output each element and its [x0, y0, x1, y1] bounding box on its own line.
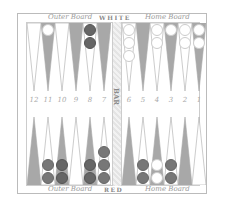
bottom-point-2[interactable]	[55, 117, 69, 185]
white-checker[interactable]	[179, 24, 191, 36]
red-checker[interactable]	[56, 159, 68, 171]
red-checker[interactable]	[42, 159, 54, 171]
top-point-9[interactable]	[164, 23, 178, 91]
red-label: RED	[104, 186, 123, 193]
red-checker[interactable]	[98, 172, 110, 184]
white-checker[interactable]	[165, 24, 177, 36]
red-checker[interactable]	[84, 159, 96, 171]
red-checker[interactable]	[137, 159, 149, 171]
bottom-point-11[interactable]	[192, 117, 206, 185]
top-point-10[interactable]	[178, 23, 192, 91]
top-point-5[interactable]	[97, 23, 111, 91]
top-outer-board-label: Outer Board	[48, 13, 92, 21]
point-number: 2	[178, 96, 192, 104]
top-point-4[interactable]	[83, 23, 97, 91]
top-point-6[interactable]	[122, 23, 136, 91]
point-number: 5	[136, 96, 150, 104]
top-point-3[interactable]	[69, 23, 83, 91]
bottom-point-6[interactable]	[122, 117, 136, 185]
white-checker[interactable]	[42, 24, 54, 36]
white-checker[interactable]	[151, 159, 163, 171]
bottom-point-8[interactable]	[150, 117, 164, 185]
red-checker[interactable]	[84, 172, 96, 184]
point-number: 8	[83, 96, 97, 104]
top-point-0[interactable]	[27, 23, 41, 91]
red-checker[interactable]	[42, 172, 54, 184]
red-checker[interactable]	[84, 24, 96, 36]
white-checker[interactable]	[193, 24, 205, 36]
point-number: 3	[164, 96, 178, 104]
white-checker[interactable]	[151, 24, 163, 36]
white-checker[interactable]	[151, 172, 163, 184]
red-checker[interactable]	[56, 172, 68, 184]
top-point-7[interactable]	[136, 23, 150, 91]
bottom-point-5[interactable]	[97, 117, 111, 185]
red-checker[interactable]	[165, 159, 177, 171]
red-checker[interactable]	[137, 172, 149, 184]
top-home-board-label: Home Board	[145, 13, 190, 21]
bottom-point-0[interactable]	[27, 117, 41, 185]
point-number: 7	[97, 96, 111, 104]
white-checker[interactable]	[123, 50, 135, 62]
white-checker[interactable]	[123, 37, 135, 49]
point-number: 9	[69, 96, 83, 104]
bottom-point-7[interactable]	[136, 117, 150, 185]
point-number: 4	[150, 96, 164, 104]
top-point-8[interactable]	[150, 23, 164, 91]
white-checker[interactable]	[151, 37, 163, 49]
top-point-1[interactable]	[41, 23, 55, 91]
top-point-11[interactable]	[192, 23, 206, 91]
point-number: 12	[27, 96, 41, 104]
bottom-point-9[interactable]	[164, 117, 178, 185]
bottom-point-10[interactable]	[178, 117, 192, 185]
white-label: WHITE	[99, 14, 131, 21]
bottom-home-board-label: Home Board	[145, 185, 190, 193]
white-checker[interactable]	[179, 37, 191, 49]
bottom-point-4[interactable]	[83, 117, 97, 185]
top-point-2[interactable]	[55, 23, 69, 91]
red-checker[interactable]	[98, 146, 110, 158]
point-number: 10	[55, 96, 69, 104]
bar-label: BAR	[112, 88, 122, 105]
white-checker[interactable]	[193, 37, 205, 49]
white-checker[interactable]	[123, 24, 135, 36]
bottom-outer-board-label: Outer Board	[48, 185, 92, 193]
point-number: 6	[122, 96, 136, 104]
bottom-point-1[interactable]	[41, 117, 55, 185]
point-number: 11	[41, 96, 55, 104]
red-checker[interactable]	[98, 159, 110, 171]
red-checker[interactable]	[165, 172, 177, 184]
bottom-point-3[interactable]	[69, 117, 83, 185]
point-number: 1	[192, 96, 206, 104]
red-checker[interactable]	[84, 37, 96, 49]
